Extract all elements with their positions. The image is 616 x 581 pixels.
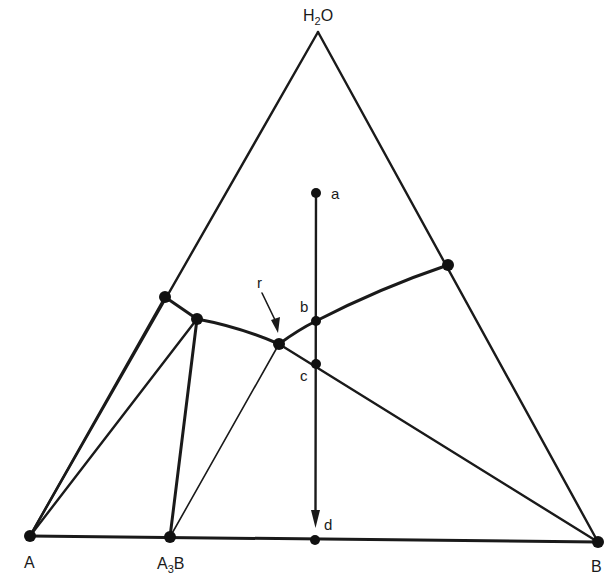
tie-line-a-p2 [30, 319, 197, 536]
arrowhead-icon [271, 317, 280, 333]
label-b-vertex: B [591, 558, 602, 575]
edge-h2o-b [318, 32, 598, 542]
r-pointer-line [262, 293, 276, 322]
label-h2o: H2O [303, 7, 333, 27]
label-a: a [331, 185, 340, 202]
curve-p2-r [197, 319, 279, 344]
point-a [311, 188, 321, 198]
arrowhead-down-icon [311, 510, 320, 528]
point-p2 [191, 313, 203, 325]
tie-lines [30, 297, 598, 542]
point-b [311, 316, 321, 326]
tie-line-a3b-p2 [170, 319, 197, 537]
point-r [273, 338, 285, 350]
point-p1 [159, 291, 171, 303]
label-r: r [257, 274, 262, 291]
point-d [310, 535, 320, 545]
point-b-vertex [592, 536, 604, 548]
path-line-a-d [316, 193, 317, 514]
ternary-phase-diagram: H2O A A3B B a b c d r [0, 0, 616, 581]
tie-line-r-b [279, 344, 598, 542]
point-a-vertex [24, 530, 36, 542]
r-pointer [262, 293, 280, 333]
point-c [311, 359, 321, 369]
point-a3b [164, 531, 176, 543]
triangle-outline [30, 32, 598, 542]
label-b: b [300, 298, 308, 315]
tie-line-a3b-r [170, 344, 279, 537]
point-p3 [442, 259, 454, 271]
label-c: c [300, 367, 308, 384]
label-a-vertex: A [24, 554, 35, 571]
points [24, 188, 604, 548]
label-d: d [324, 516, 332, 533]
label-a3b: A3B [157, 555, 184, 575]
tie-line-a-p1 [30, 297, 165, 536]
